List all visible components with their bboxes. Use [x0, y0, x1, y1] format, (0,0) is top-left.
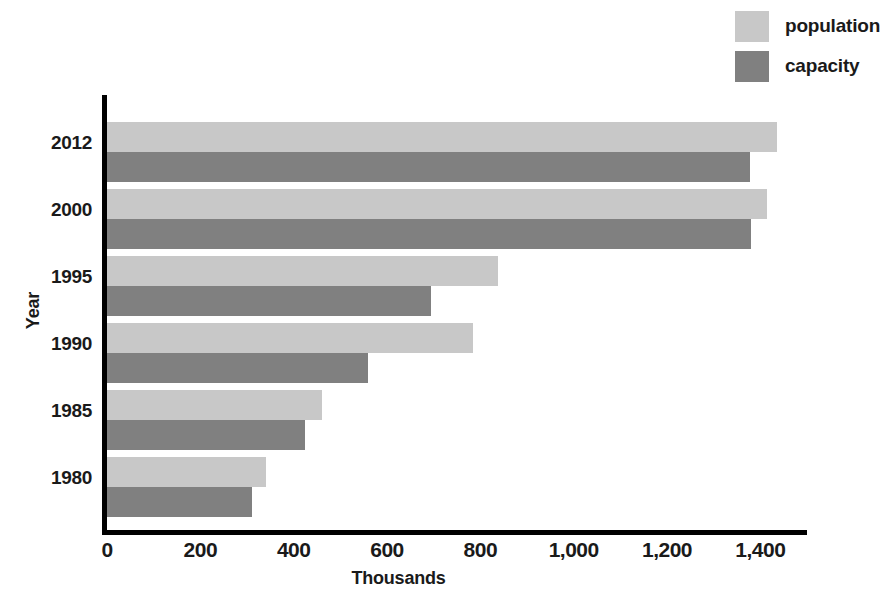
- bar-population-1980: [107, 457, 266, 487]
- x-axis-tick-labels: 02004006008001,0001,2001,400: [0, 538, 869, 566]
- legend-label-capacity: capacity: [785, 55, 859, 77]
- y-axis-title: Year: [23, 271, 44, 351]
- plot-area: [107, 95, 807, 535]
- y-tick-label-1985: 1985: [22, 400, 92, 422]
- bar-capacity-2012: [107, 152, 750, 182]
- legend-item-capacity: capacity: [735, 46, 884, 86]
- y-axis-tick-labels: 201220001995199019851980: [0, 95, 95, 535]
- bar-group-2012: [107, 122, 807, 182]
- bar-group-2000: [107, 189, 807, 249]
- x-tick-label-1400: 1,400: [705, 538, 815, 562]
- bar-capacity-1985: [107, 420, 305, 450]
- bar-group-1985: [107, 390, 807, 450]
- legend-label-population: population: [785, 15, 880, 37]
- y-tick-label-2000: 2000: [22, 199, 92, 221]
- bar-population-2012: [107, 122, 777, 152]
- bar-population-1990: [107, 323, 473, 353]
- bar-group-1980: [107, 457, 807, 517]
- bar-group-1990: [107, 323, 807, 383]
- y-tick-label-1980: 1980: [22, 467, 92, 489]
- bar-capacity-1995: [107, 286, 431, 316]
- bar-capacity-2000: [107, 219, 751, 249]
- bar-population-1985: [107, 390, 322, 420]
- legend-swatch-capacity: [735, 51, 769, 82]
- legend-item-population: population: [735, 6, 884, 46]
- bar-capacity-1980: [107, 487, 252, 517]
- chart-legend: population capacity: [735, 6, 884, 86]
- bar-population-2000: [107, 189, 767, 219]
- bar-group-1995: [107, 256, 807, 316]
- y-tick-label-2012: 2012: [22, 132, 92, 154]
- x-axis-title: Thousands: [0, 568, 797, 589]
- x-axis-line: [102, 530, 807, 535]
- bar-capacity-1990: [107, 353, 368, 383]
- bar-population-1995: [107, 256, 498, 286]
- legend-swatch-population: [735, 11, 769, 42]
